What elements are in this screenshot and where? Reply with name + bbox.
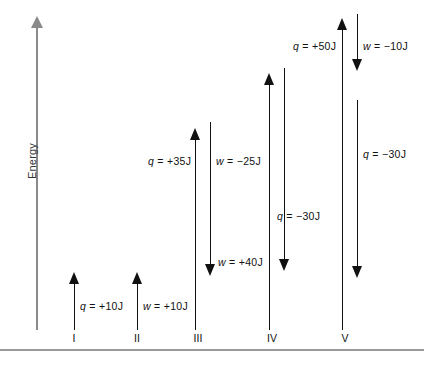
arrow-shaft bbox=[284, 68, 285, 263]
value-q-minus-30-v: = −30J bbox=[372, 148, 406, 160]
arrowhead-down-icon bbox=[279, 259, 289, 271]
arrow-shaft bbox=[269, 81, 270, 330]
value-q-plus-10: = +10J bbox=[89, 300, 123, 312]
arrow-shaft bbox=[74, 280, 75, 330]
arrowhead-down-icon bbox=[205, 264, 215, 276]
value-q-plus-35: = +35J bbox=[157, 155, 191, 167]
label-q-minus-30-v: q = −30J bbox=[363, 148, 406, 160]
arrow-shaft bbox=[342, 26, 343, 330]
value-w-plus-10: = +10J bbox=[154, 300, 188, 312]
label-w-plus-40: w = +40J bbox=[218, 256, 263, 268]
energy-diagram: Energy q = +10J I w = +10J II q = +35J w… bbox=[0, 0, 424, 365]
value-q-plus-50: = +50J bbox=[302, 40, 336, 52]
value-w-minus-25: = −25J bbox=[227, 155, 261, 167]
arrow-shaft bbox=[357, 100, 358, 270]
symbol-w: w bbox=[363, 40, 371, 52]
symbol-q: q bbox=[80, 300, 86, 312]
process-label-IV: IV bbox=[260, 332, 284, 344]
value-w-minus-10: = −10J bbox=[374, 40, 408, 52]
symbol-q: q bbox=[277, 210, 283, 222]
arrow-shaft bbox=[210, 122, 211, 268]
symbol-w: w bbox=[143, 300, 151, 312]
process-label-III: III bbox=[186, 332, 210, 344]
bottom-divider bbox=[0, 349, 424, 351]
label-q-plus-50: q = +50J bbox=[293, 40, 336, 52]
symbol-q: q bbox=[148, 155, 154, 167]
label-q-minus-30-iv: q = −30J bbox=[277, 210, 320, 222]
label-q-plus-35: q = +35J bbox=[148, 155, 191, 167]
process-label-V: V bbox=[333, 332, 357, 344]
symbol-q: q bbox=[293, 40, 299, 52]
symbol-w: w bbox=[216, 155, 224, 167]
process-label-I: I bbox=[62, 332, 86, 344]
label-w-plus-10: w = +10J bbox=[143, 300, 188, 312]
label-w-minus-25: w = −25J bbox=[216, 155, 261, 167]
label-q-plus-10: q = +10J bbox=[80, 300, 123, 312]
arrowhead-down-icon bbox=[352, 59, 362, 71]
value-q-minus-30-iv: = −30J bbox=[286, 210, 320, 222]
label-w-minus-10: w = −10J bbox=[363, 40, 408, 52]
process-label-II: II bbox=[125, 332, 149, 344]
arrow-shaft bbox=[137, 280, 138, 330]
arrow-shaft bbox=[357, 14, 358, 63]
arrow-shaft bbox=[195, 136, 196, 330]
symbol-w: w bbox=[218, 256, 226, 268]
energy-axis-label: Energy bbox=[26, 121, 38, 201]
symbol-q: q bbox=[363, 148, 369, 160]
value-w-plus-40: = +40J bbox=[229, 256, 263, 268]
arrowhead-down-icon bbox=[352, 266, 362, 278]
